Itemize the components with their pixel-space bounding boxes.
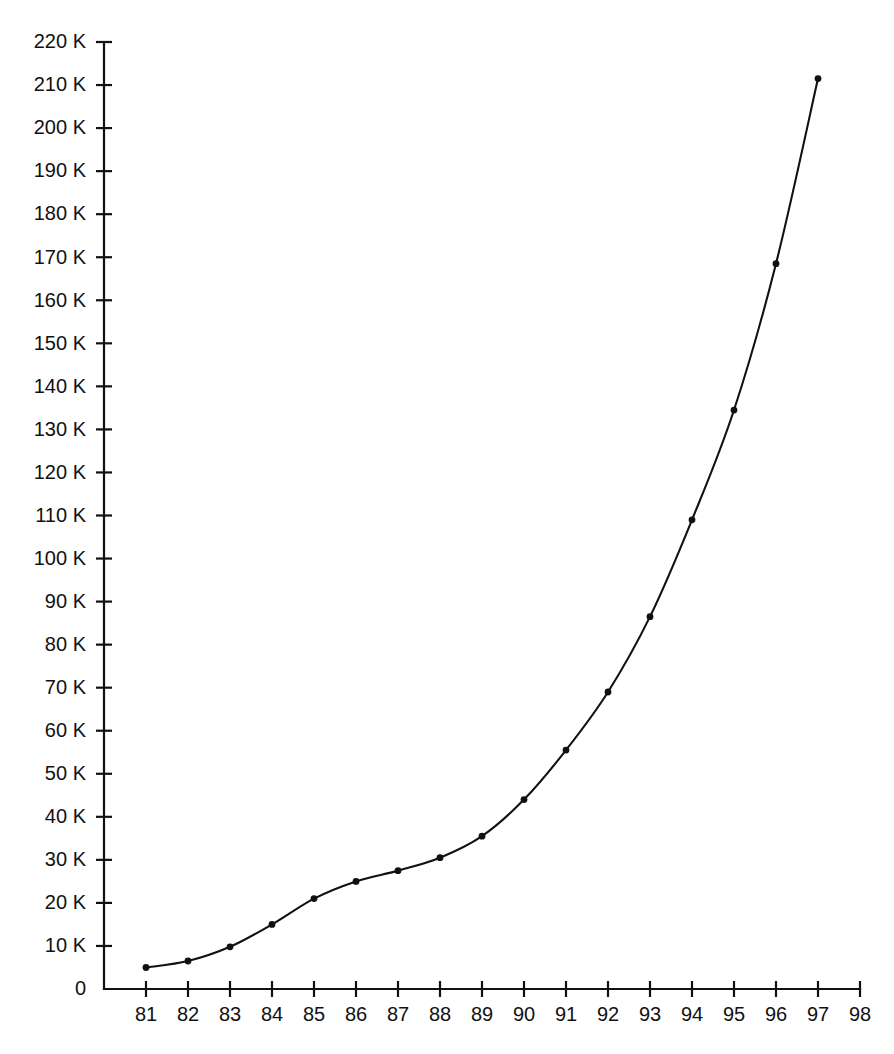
x-tick-label: 87 [387, 1003, 409, 1025]
x-tick-label: 86 [345, 1003, 367, 1025]
data-point-marker [269, 921, 276, 928]
data-point-marker [395, 867, 402, 874]
y-tick-label: 120 K [34, 461, 87, 483]
data-point-marker [689, 516, 696, 523]
y-tick-label: 200 K [34, 116, 87, 138]
x-tick-label: 96 [765, 1003, 787, 1025]
line-chart: 010 K20 K30 K40 K50 K60 K70 K80 K90 K100… [0, 0, 894, 1054]
y-tick-label: 20 K [45, 891, 87, 913]
data-point-marker [143, 964, 150, 971]
y-tick-label: 100 K [34, 547, 87, 569]
data-point-marker [773, 260, 780, 267]
x-tick-label: 97 [807, 1003, 829, 1025]
data-point-marker [311, 895, 318, 902]
x-tick-label: 88 [429, 1003, 451, 1025]
y-tick-label: 0 [75, 977, 86, 999]
y-tick-label: 10 K [45, 934, 87, 956]
y-tick-label: 30 K [45, 848, 87, 870]
data-point-marker [605, 689, 612, 696]
y-tick-label: 220 K [34, 30, 87, 52]
data-point-marker [437, 854, 444, 861]
x-tick-label: 90 [513, 1003, 535, 1025]
chart-container: 010 K20 K30 K40 K50 K60 K70 K80 K90 K100… [0, 0, 894, 1054]
x-tick-label: 93 [639, 1003, 661, 1025]
x-tick-label: 85 [303, 1003, 325, 1025]
y-tick-label: 160 K [34, 289, 87, 311]
y-tick-label: 210 K [34, 73, 87, 95]
y-tick-label: 190 K [34, 159, 87, 181]
y-tick-label: 80 K [45, 633, 87, 655]
x-tick-label: 84 [261, 1003, 283, 1025]
y-tick-label: 140 K [34, 375, 87, 397]
x-tick-label: 94 [681, 1003, 703, 1025]
x-tick-label: 81 [135, 1003, 157, 1025]
y-tick-label: 170 K [34, 246, 87, 268]
x-tick-label: 91 [555, 1003, 577, 1025]
x-tick-label: 89 [471, 1003, 493, 1025]
y-tick-label: 90 K [45, 590, 87, 612]
chart-background [0, 0, 894, 1054]
x-tick-label: 82 [177, 1003, 199, 1025]
y-tick-label: 40 K [45, 805, 87, 827]
y-tick-label: 110 K [35, 504, 86, 526]
data-point-marker [227, 943, 234, 950]
data-point-marker [815, 75, 822, 82]
data-point-marker [563, 747, 570, 754]
data-point-marker [647, 613, 654, 620]
data-point-marker [185, 958, 192, 965]
y-tick-label: 50 K [45, 762, 87, 784]
x-tick-label: 83 [219, 1003, 241, 1025]
data-point-marker [479, 833, 486, 840]
y-tick-label: 70 K [45, 676, 87, 698]
y-tick-label: 150 K [34, 332, 87, 354]
x-tick-label: 95 [723, 1003, 745, 1025]
y-tick-label: 130 K [34, 418, 87, 440]
x-tick-label: 92 [597, 1003, 619, 1025]
data-point-marker [353, 878, 360, 885]
data-point-marker [731, 407, 738, 414]
y-tick-label: 180 K [34, 202, 87, 224]
y-tick-label: 60 K [45, 719, 87, 741]
x-tick-label: 98 [849, 1003, 871, 1025]
data-point-marker [521, 796, 528, 803]
